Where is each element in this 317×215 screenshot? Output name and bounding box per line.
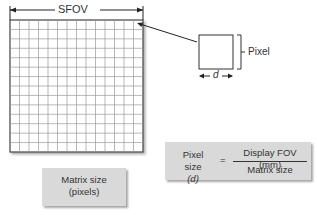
formula-fraction-bar — [233, 161, 307, 162]
matrix-size-line1: Matrix size — [42, 174, 126, 186]
pixel-bracket — [237, 35, 245, 69]
pixel-label: Pixel — [248, 46, 270, 57]
pixel-square — [199, 35, 233, 69]
formula-equals: = — [220, 154, 226, 166]
d-label: d — [213, 69, 219, 80]
sfov-label: SFOV — [58, 3, 88, 15]
formula-lhs: Pixel size (d) — [173, 149, 213, 185]
pixel-pointer-arrow — [137, 23, 197, 43]
matrix-size-line2: (pixels) — [42, 186, 126, 198]
formula-lhs-line1: Pixel size — [173, 149, 213, 173]
matrix-size-box: Matrix size (pixels) — [42, 168, 126, 206]
formula-lhs-line2: (d) — [173, 173, 213, 185]
formula-denominator: Matrix size — [233, 164, 307, 176]
pixel-size-formula-box: Pixel size (d) = Display FOV (mm) Matrix… — [165, 142, 311, 180]
